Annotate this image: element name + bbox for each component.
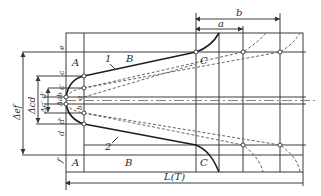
svg-text:Δcd: Δcd: [27, 96, 37, 115]
region-C-top: C: [200, 55, 208, 66]
svg-text:L(T): L(T): [163, 171, 185, 182]
svg-text:a: a: [218, 18, 224, 29]
svg-text:Δef: Δef: [12, 103, 22, 121]
dimension-delta-c-d-prime: Δc′ d′: [39, 89, 48, 114]
dimension-b: b: [196, 7, 280, 19]
nodes: [64, 50, 282, 147]
svg-text:Δab: Δab: [56, 92, 64, 107]
tolerance-diagram: b a L(T) Δef Δcd Δc′ d′ Δab e c c′ a b d…: [0, 0, 321, 196]
label-a: a: [76, 96, 84, 100]
label-d: d: [57, 131, 66, 136]
label-c-prime: c′: [57, 84, 66, 90]
label-b: b: [76, 105, 84, 110]
region-A-top: A: [71, 57, 79, 68]
frame: [66, 13, 303, 190]
svg-text:Δc′ d′: Δc′ d′: [39, 91, 48, 114]
region-B-top: B: [125, 53, 133, 64]
label-e: e: [57, 45, 66, 50]
curve-1-label: 1: [105, 53, 111, 64]
region-C-bottom: C: [200, 157, 208, 168]
dimension-delta-ef: Δef: [12, 53, 23, 154]
region-B-bottom: B: [124, 157, 132, 168]
curve-2-label: 2: [104, 141, 111, 152]
dimension-length: L(T): [66, 171, 303, 183]
dimension-delta-ab: Δab: [56, 92, 64, 107]
region-A-bottom: A: [71, 157, 79, 168]
label-c: c: [57, 70, 66, 75]
dimension-delta-cd: Δcd: [27, 77, 38, 123]
label-d-prime: d′: [57, 117, 66, 124]
label-f: f: [55, 156, 66, 165]
dimension-a: a: [196, 18, 243, 29]
svg-text:b: b: [236, 7, 242, 18]
